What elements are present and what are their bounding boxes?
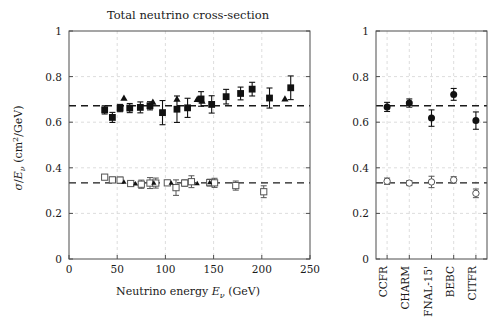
marker-open-circle [473, 190, 479, 196]
y-tick-label: 0 [55, 253, 62, 265]
y-tick-label: 0 [362, 253, 369, 265]
marker-filled-square [126, 105, 133, 112]
marker-filled-square [101, 106, 108, 113]
marker-open-circle [384, 178, 390, 184]
x-axis-label: Neutrino energy Eν (GeV) [116, 285, 260, 300]
marker-open-square [128, 180, 134, 186]
marker-filled-square [249, 86, 256, 93]
marker-filled-circle [450, 91, 457, 98]
x-tick-label: 50 [111, 263, 124, 275]
marker-filled-square [208, 101, 215, 108]
marker-filled-square [137, 104, 144, 111]
neutrino-cross-section-figure: Total neutrino cross-section 05010015020… [0, 0, 504, 317]
marker-filled-circle [384, 103, 391, 110]
y-tick-label: 0.2 [352, 207, 369, 219]
marker-filled-circle [406, 100, 413, 107]
marker-filled-square [287, 84, 294, 91]
marker-filled-square [159, 109, 166, 116]
category-label-charm: CHARM [399, 266, 411, 310]
x-tick-label: 100 [155, 263, 175, 275]
y-tick-label: 1 [362, 25, 369, 37]
y-tick-label: 0.6 [45, 116, 62, 128]
x-tick-label: 200 [252, 263, 272, 275]
marker-filled-square [174, 106, 181, 113]
marker-open-square [164, 180, 170, 186]
category-label-citfr: CITFR [466, 265, 478, 300]
x-tick-label: 0 [66, 263, 73, 275]
marker-open-square [109, 177, 115, 183]
marker-open-circle [451, 177, 457, 183]
marker-open-square [188, 179, 194, 185]
y-tick-label: 0.8 [45, 71, 62, 83]
category-label-bebc: BEBC [444, 266, 456, 297]
marker-filled-square [117, 105, 124, 112]
y-tick-label: 0.8 [352, 71, 369, 83]
marker-filled-circle [472, 117, 479, 124]
page-title: Total neutrino cross-section [107, 8, 270, 22]
marker-open-square [102, 174, 108, 180]
marker-open-square [173, 185, 179, 191]
y-tick-label: 1 [55, 25, 62, 37]
marker-open-square [182, 180, 188, 186]
marker-open-square [233, 182, 239, 188]
marker-open-square [138, 181, 144, 187]
marker-filled-square [266, 95, 273, 102]
category-label-ccfr: CCFR [377, 265, 389, 297]
y-tick-label: 0.2 [45, 207, 62, 219]
x-tick-label: 150 [204, 263, 224, 275]
marker-filled-circle [428, 115, 435, 122]
y-tick-label: 0.4 [352, 162, 369, 174]
category-label-fnal-15: FNAL-15' [422, 266, 434, 317]
marker-filled-square [184, 104, 191, 111]
y-axis-label: σ/Eν (cm2/GeV) [11, 106, 27, 191]
figure-container: Total neutrino cross-section 05010015020… [0, 0, 504, 317]
y-tick-label: 0.4 [45, 162, 62, 174]
marker-open-square [261, 189, 267, 195]
marker-filled-square [109, 114, 116, 121]
y-tick-label: 0.6 [352, 116, 369, 128]
marker-open-square [147, 180, 153, 186]
marker-open-square [211, 180, 217, 186]
marker-open-circle [428, 179, 434, 185]
marker-open-circle [406, 180, 412, 186]
x-tick-label: 250 [300, 263, 320, 275]
marker-filled-square [237, 90, 244, 97]
marker-filled-square [223, 93, 230, 100]
